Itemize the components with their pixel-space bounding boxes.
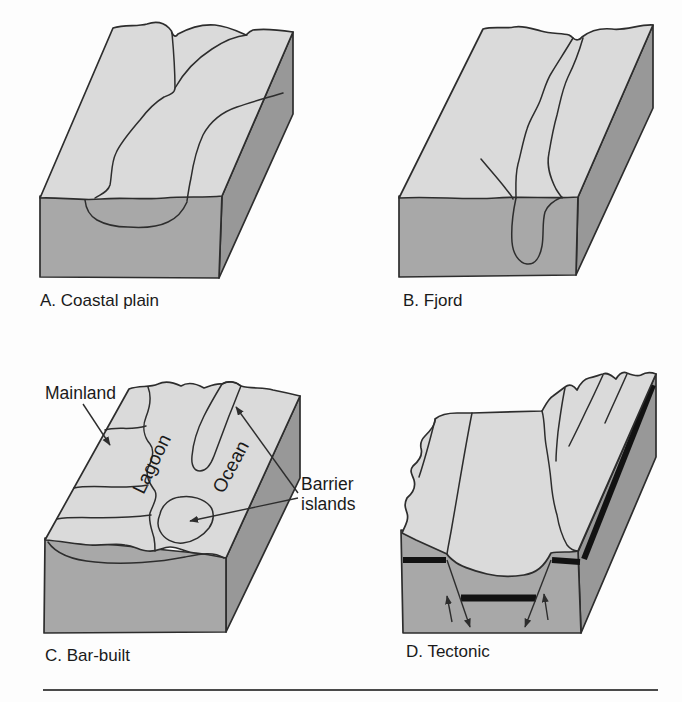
panel-b-block xyxy=(399,25,653,277)
panel-b-front-face xyxy=(399,195,578,277)
panel-d-block xyxy=(401,372,656,633)
panel-c-block xyxy=(44,382,300,633)
panel-a-front-face xyxy=(40,194,222,278)
panel-d-rock-layer-right xyxy=(552,560,580,562)
panel-b-caption: B. Fjord xyxy=(403,291,463,311)
label-barrier-islands-line1: Barrier xyxy=(301,474,355,494)
panel-a-block xyxy=(40,23,293,278)
estuary-types-figure: A. Coastal plain B. Fjord C. Bar-built D… xyxy=(0,0,682,702)
label-barrier-islands: Barrier islands xyxy=(301,474,355,514)
panel-c-caption: C. Bar-built xyxy=(45,646,130,666)
label-mainland: Mainland xyxy=(45,383,116,403)
bottom-rule xyxy=(43,689,658,691)
panel-d-caption: D. Tectonic xyxy=(406,642,490,662)
label-barrier-islands-line2: islands xyxy=(301,494,355,514)
mainland-arrow xyxy=(83,404,110,445)
estuary-block-diagrams xyxy=(0,0,682,702)
panel-a-caption: A. Coastal plain xyxy=(40,291,159,311)
